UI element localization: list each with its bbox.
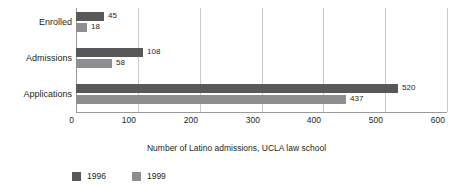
legend-item-1999: 1999 — [132, 171, 166, 182]
legend-swatch-1996 — [72, 172, 81, 181]
bar-chart: Enrolled Admissions Applications 45 18 1… — [0, 0, 473, 194]
y-axis-label-applications: Applications — [0, 89, 72, 100]
bar-group-applications: 520 437 — [76, 80, 447, 114]
bar-value-enrolled-1996: 45 — [108, 11, 117, 20]
bar-value-admissions-1996: 108 — [147, 47, 161, 56]
x-tick-label-600: 600 — [431, 115, 447, 126]
bar-value-applications-1999: 437 — [350, 94, 364, 103]
x-tick-label-400: 400 — [307, 115, 323, 126]
bar-value-applications-1996: 520 — [402, 83, 416, 92]
x-tick-label-0: 0 — [69, 115, 76, 126]
x-axis-line — [76, 112, 447, 113]
x-tick-label-300: 300 — [246, 115, 262, 126]
legend-label-1999: 1999 — [147, 171, 166, 182]
chart-legend: 1996 1999 — [72, 170, 192, 182]
bar-group-enrolled: 45 18 — [76, 8, 447, 42]
x-axis-title: Number of Latino admissions, UCLA law sc… — [0, 143, 473, 154]
bar-applications-1996 — [76, 84, 398, 93]
bar-value-admissions-1999: 58 — [116, 58, 125, 67]
y-axis-label-enrolled: Enrolled — [0, 17, 72, 28]
plot-area: 45 18 108 58 520 437 — [76, 8, 447, 112]
y-axis-labels: Enrolled Admissions Applications — [0, 8, 72, 112]
gridline-600 — [447, 8, 448, 112]
x-tick-label-100: 100 — [122, 115, 138, 126]
bar-admissions-1996 — [76, 48, 143, 57]
bar-enrolled-1999 — [76, 23, 87, 32]
bar-value-enrolled-1999: 18 — [91, 22, 100, 31]
x-tick-label-500: 500 — [369, 115, 385, 126]
bar-group-admissions: 108 58 — [76, 44, 447, 78]
legend-item-1996: 1996 — [72, 171, 106, 182]
bar-enrolled-1996 — [76, 12, 104, 21]
bar-admissions-1999 — [76, 59, 112, 68]
legend-label-1996: 1996 — [87, 171, 106, 182]
bar-applications-1999 — [76, 95, 346, 104]
x-tick-label-200: 200 — [184, 115, 200, 126]
y-axis-label-admissions: Admissions — [0, 53, 72, 64]
legend-swatch-1999 — [132, 172, 141, 181]
